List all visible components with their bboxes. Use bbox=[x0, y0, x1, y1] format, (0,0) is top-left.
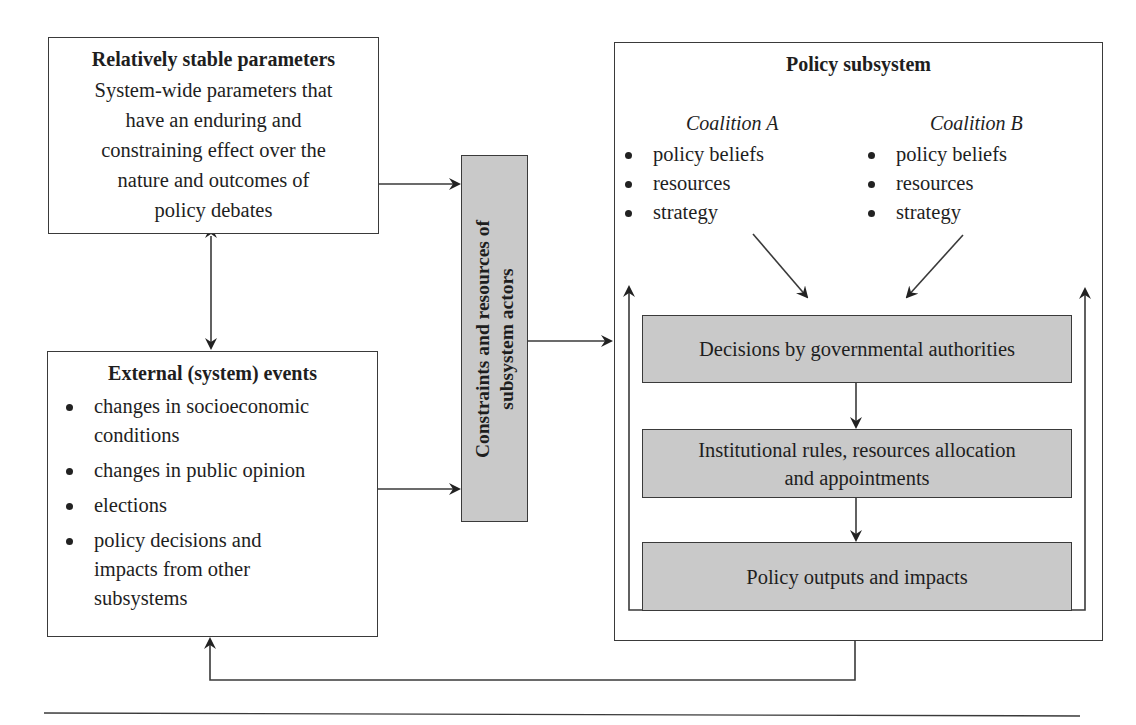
coalition-a-list: policy beliefs resources strategy bbox=[617, 140, 764, 227]
bullet-icon bbox=[66, 468, 73, 475]
list-item: elections bbox=[58, 491, 377, 520]
external-events-box: External (system) events changes in soci… bbox=[47, 351, 378, 637]
bullet-icon bbox=[868, 152, 875, 159]
coalition-b-title: Coalition B bbox=[930, 112, 1023, 135]
decisions-box: Decisions by governmental authorities bbox=[642, 315, 1072, 383]
bullet-icon bbox=[625, 152, 632, 159]
coalition-a-title: Coalition A bbox=[686, 112, 778, 135]
list-item: resources bbox=[617, 169, 764, 198]
list-item: strategy bbox=[617, 198, 764, 227]
list-item: policy beliefs bbox=[860, 140, 1007, 169]
stable-parameters-description: System-wide parameters that have an endu… bbox=[49, 75, 378, 225]
policy-outputs-label: Policy outputs and impacts bbox=[643, 562, 1071, 592]
bullet-icon bbox=[625, 210, 632, 217]
stable-parameters-title: Relatively stable parameters bbox=[49, 47, 378, 71]
list-item: policy beliefs bbox=[617, 140, 764, 169]
bullet-icon bbox=[625, 181, 632, 188]
arrow-subsystem-to-external bbox=[210, 639, 855, 680]
list-item: resources bbox=[860, 169, 1007, 198]
bullet-icon bbox=[66, 538, 73, 545]
constraints-box: Constraints and resources of subsystem a… bbox=[461, 155, 528, 522]
list-item: policy decisions and impacts from other … bbox=[58, 526, 377, 613]
decisions-label: Decisions by governmental authorities bbox=[643, 334, 1071, 364]
bullet-icon bbox=[868, 210, 875, 217]
bullet-icon bbox=[868, 181, 875, 188]
list-item: strategy bbox=[860, 198, 1007, 227]
external-events-title: External (system) events bbox=[48, 360, 377, 386]
external-events-list: changes in socioeconomic conditions chan… bbox=[48, 392, 377, 613]
list-item: changes in socioeconomic conditions bbox=[58, 392, 377, 450]
constraints-label: Constraints and resources of subsystem a… bbox=[471, 219, 519, 457]
policy-outputs-box: Policy outputs and impacts bbox=[642, 542, 1072, 611]
bullet-icon bbox=[66, 404, 73, 411]
policy-subsystem-title: Policy subsystem bbox=[615, 52, 1102, 76]
list-item: changes in public opinion bbox=[58, 456, 377, 485]
institutional-rules-label: Institutional rules, resources allocatio… bbox=[643, 436, 1071, 492]
coalition-b-list: policy beliefs resources strategy bbox=[860, 140, 1007, 227]
stable-parameters-box: Relatively stable parameters System-wide… bbox=[48, 37, 379, 234]
bullet-icon bbox=[66, 503, 73, 510]
footer-rule bbox=[44, 713, 1080, 716]
institutional-rules-box: Institutional rules, resources allocatio… bbox=[642, 429, 1072, 498]
